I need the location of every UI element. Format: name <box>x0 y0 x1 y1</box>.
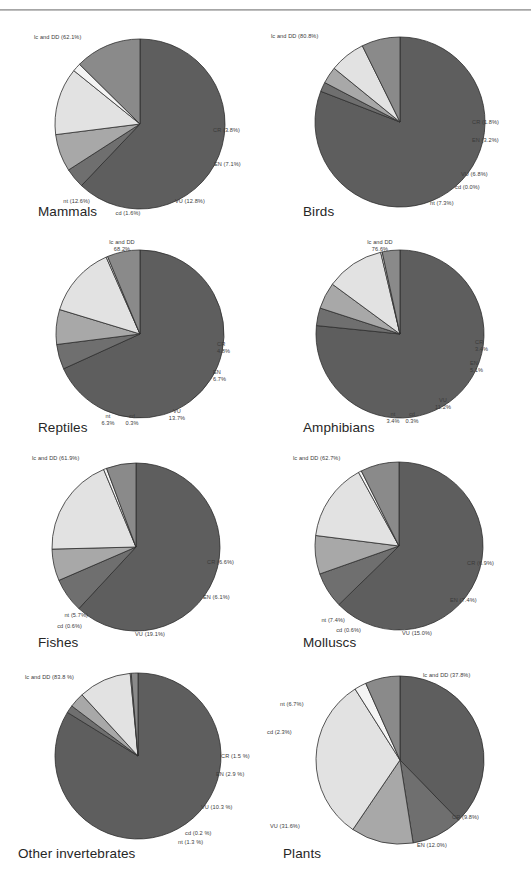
chart-title: Mammals <box>38 204 97 219</box>
pie-slice-label-VU: VU13.7% <box>169 408 185 422</box>
pie-slice-label-VU: VU (12.8%) <box>175 198 205 205</box>
chart-title: Other invertebrates <box>18 846 135 861</box>
pie-slice-label-cd: cd0.3% <box>405 411 418 425</box>
pie-slice-label-nt: nt6.3% <box>101 413 114 427</box>
pie-slice-label-EN: EN5.1% <box>470 360 483 374</box>
pie-svg <box>0 442 265 656</box>
pie-slice-label-nt: nt (6.7%) <box>280 701 304 708</box>
pie-slice-label-EN: EN (3.2%) <box>472 137 499 144</box>
pie-slice-label-VU: VU11.2% <box>435 397 451 411</box>
pie-slice-label-CR: CR (9.8%) <box>452 814 479 821</box>
pie-panel-other-invertebrates: lc and DD (83.8 %)CR (1.5 %)EN (2.9 %)VU… <box>0 656 265 863</box>
pie-slice-label-cd: cd0.3% <box>125 413 138 427</box>
pie-slice-label-CR: CR (1.5 %) <box>221 753 250 760</box>
pie-slice-label-nt: nt (7.4%) <box>321 617 345 624</box>
pie-svg <box>0 228 265 442</box>
pie-panel-mammals: lc and DD (62.1%)CR (3.8%)EN (7.1%)VU (1… <box>0 14 265 228</box>
pie-slice-label-cd: cd (0.0%) <box>455 184 480 191</box>
pie-slice-label-CR: CR (6.6%) <box>207 559 234 566</box>
pie-slice-label-EN: EN (7.1%) <box>214 161 241 168</box>
pie-slice-label-VU: VU (6.8%) <box>461 171 488 178</box>
chart-title: Plants <box>283 846 321 861</box>
chart-title: Fishes <box>38 635 78 650</box>
pie-chart <box>0 656 265 870</box>
pie-slice-label-VU: VU (19.1%) <box>135 631 165 638</box>
pie-slice-label-lc-and-DD: lc and DD68.2% <box>109 239 134 253</box>
pie-svg <box>0 14 265 228</box>
pie-slice-label-nt: nt (7.3%) <box>430 200 454 207</box>
pie-chart <box>265 656 530 870</box>
pie-slice-label-EN: EN (2.9 %) <box>216 771 244 778</box>
pie-chart <box>0 14 265 228</box>
pie-slice-label-EN: EN (12.0%) <box>417 842 447 849</box>
pie-chart <box>265 228 530 442</box>
pie-svg <box>265 442 530 656</box>
pie-slice-label-cd: cd (0.6%) <box>57 623 82 630</box>
chart-title: Reptiles <box>38 420 88 435</box>
pie-slice-label-nt: nt (5.7%) <box>64 612 88 619</box>
pie-slice-label-EN: EN6.7% <box>213 369 226 383</box>
pie-svg <box>265 656 530 863</box>
pie-chart <box>0 228 265 442</box>
pie-slice-label-nt: nt (1.3 %) <box>178 839 203 846</box>
pie-slice-label-CR: CR3.4% <box>475 339 488 353</box>
pie-slice-label-VU: VU (15.0%) <box>402 630 432 637</box>
pie-slice-label-VU: VU (10.3 %) <box>201 804 233 811</box>
chart-title: Amphibians <box>303 420 375 435</box>
pie-panel-molluscs: lc and DD (62.7%)CR (6.9%)EN (7.4%)VU (1… <box>265 442 530 656</box>
pie-panel-birds: lc and DD (80.8%)CR (1.8%)EN (3.2%)VU (6… <box>265 14 530 228</box>
top-divider <box>0 9 531 11</box>
pie-slice-label-CR: CR (3.8%) <box>213 127 240 134</box>
pie-slice-label-CR: CR4.8% <box>217 341 230 355</box>
pie-slice-label-lc-and-DD: lc and DD (62.1%) <box>34 34 81 41</box>
pie-slice-label-cd: cd (1.6%) <box>116 210 141 217</box>
pie-chart <box>265 442 530 656</box>
pie-slice-label-lc-and-DD: lc and DD (62.7%) <box>293 455 340 462</box>
pie-chart-grid: lc and DD (62.1%)CR (3.8%)EN (7.1%)VU (1… <box>0 14 531 871</box>
pie-panel-reptiles: lc and DD68.2%CR4.8%EN6.7%VU13.7%cd0.3%n… <box>0 228 265 442</box>
chart-title: Birds <box>303 204 334 219</box>
pie-slice-label-lc-and-DD: lc and DD (80.8%) <box>271 33 318 40</box>
pie-slice-label-lc-and-DD: lc and DD (37.8%) <box>423 672 470 679</box>
pie-slice-label-VU: VU (31.6%) <box>270 823 300 830</box>
pie-svg <box>265 228 530 442</box>
pie-slice-label-EN: EN (6.1%) <box>203 594 230 601</box>
pie-chart <box>0 442 265 656</box>
chart-title: Molluscs <box>303 635 356 650</box>
pie-slice-label-nt: nt3.4% <box>386 411 399 425</box>
pie-slice-label-CR: CR (6.9%) <box>467 560 494 567</box>
pie-slice-label-CR: CR (1.8%) <box>472 119 499 126</box>
pie-panel-amphibians: lc and DD76.6%CR3.4%EN5.1%VU11.2%cd0.3%n… <box>265 228 530 442</box>
pie-slice-label-cd: cd (0.6%) <box>336 627 361 634</box>
pie-slice-label-cd: cd (2.3%) <box>267 729 292 736</box>
pie-slice-label-lc-and-DD: lc and DD (61.9%) <box>32 455 79 462</box>
pie-panel-plants: lc and DD (37.8%)CR (9.8%)EN (12.0%)VU (… <box>265 656 530 863</box>
pie-slice-label-cd: cd (0.2 %) <box>185 830 212 837</box>
pie-panel-fishes: lc and DD (61.9%)CR (6.6%)EN (6.1%)VU (1… <box>0 442 265 656</box>
pie-slice-label-EN: EN (7.4%) <box>450 597 477 604</box>
pie-slice-label-lc-and-DD: lc and DD (83.8 %) <box>25 674 74 681</box>
pie-slice-label-lc-and-DD: lc and DD76.6% <box>367 239 392 253</box>
